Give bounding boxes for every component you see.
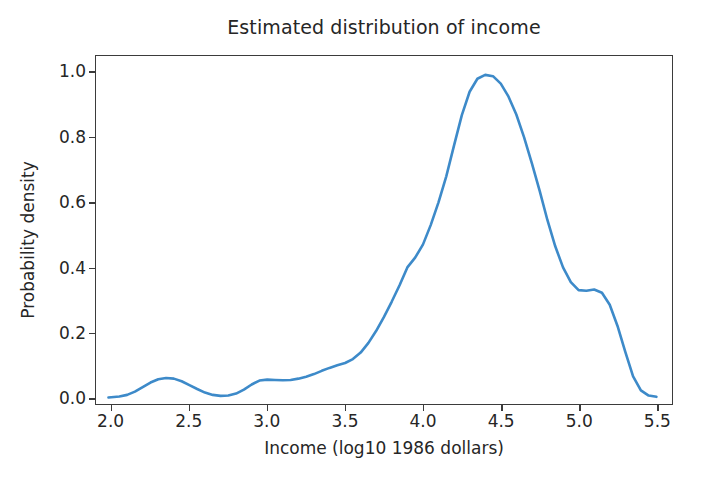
y-tick-label: 0.6 — [40, 192, 86, 212]
y-axis-label: Probability density — [18, 150, 38, 330]
x-tick-mark — [267, 405, 268, 411]
x-tick-label: 3.0 — [237, 411, 297, 431]
y-tick-mark — [89, 268, 95, 269]
y-tick-label: 0.4 — [40, 258, 86, 278]
y-axis-tick-labels: 0.00.20.40.60.81.0 — [34, 55, 86, 405]
x-tick-mark — [657, 405, 658, 411]
y-tick-mark — [89, 333, 95, 334]
x-axis-label: Income (log10 1986 dollars) — [95, 438, 673, 458]
x-tick-label: 2.0 — [81, 411, 141, 431]
x-tick-mark — [111, 405, 112, 411]
x-tick-label: 2.5 — [159, 411, 219, 431]
x-tick-mark — [189, 405, 190, 411]
x-tick-mark — [579, 405, 580, 411]
y-tick-label: 1.0 — [40, 61, 86, 81]
y-tick-label: 0.2 — [40, 323, 86, 343]
y-tick-mark — [89, 137, 95, 138]
x-tick-label: 5.5 — [627, 411, 687, 431]
x-tick-mark — [345, 405, 346, 411]
y-tick-mark — [89, 71, 95, 72]
y-tick-mark — [89, 398, 95, 399]
density-curve-line — [108, 75, 656, 398]
chart-title: Estimated distribution of income — [95, 16, 673, 38]
x-tick-mark — [423, 405, 424, 411]
y-tick-label: 0.0 — [40, 388, 86, 408]
y-tick-label: 0.8 — [40, 127, 86, 147]
x-tick-label: 4.0 — [393, 411, 453, 431]
x-tick-label: 5.0 — [549, 411, 609, 431]
density-curve-svg — [96, 56, 672, 404]
y-tick-mark — [89, 202, 95, 203]
x-tick-mark — [501, 405, 502, 411]
x-tick-label: 3.5 — [315, 411, 375, 431]
x-tick-label: 4.5 — [471, 411, 531, 431]
figure-canvas: Estimated distribution of income 0.00.20… — [0, 0, 716, 479]
plot-area — [95, 55, 673, 405]
